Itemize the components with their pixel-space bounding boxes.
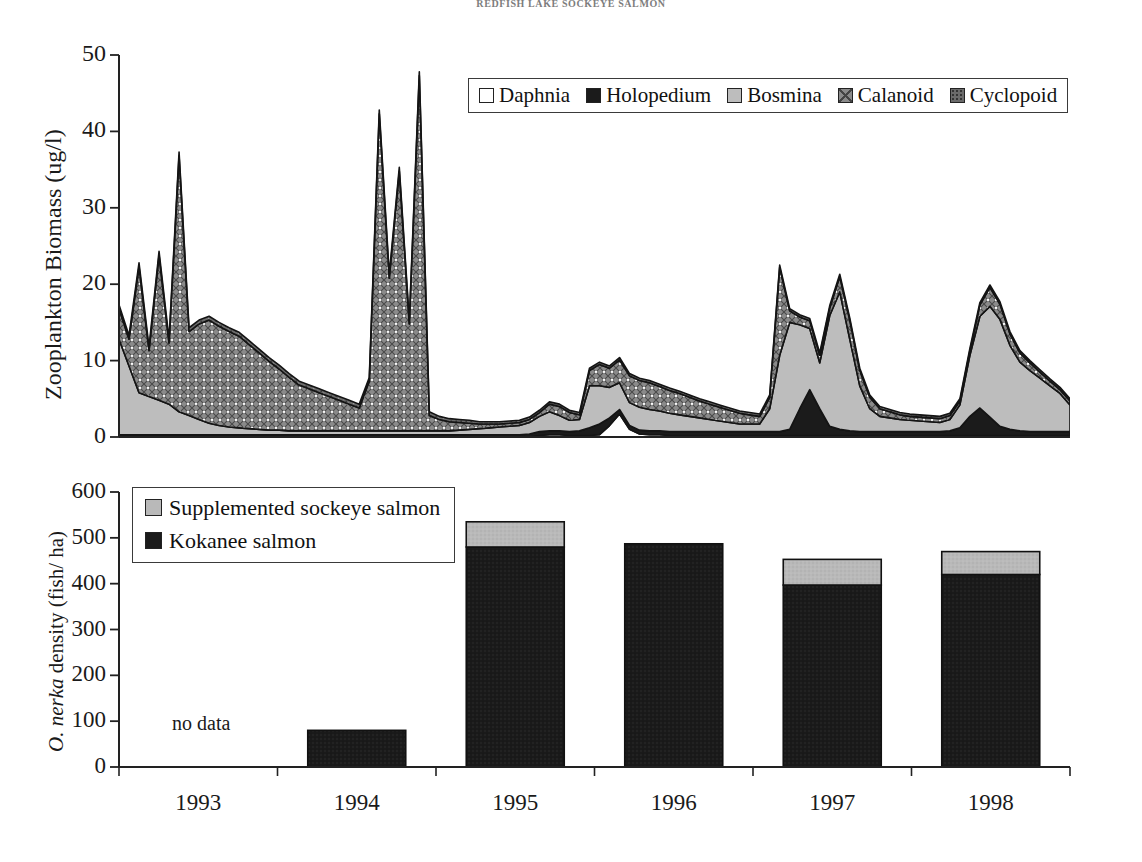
top-y-tick-40: 40 (30, 117, 106, 141)
legend-label: Calanoid (858, 84, 934, 106)
bottom-y-tick-200: 200 (18, 662, 106, 685)
supplemented-sockeye-swatch (145, 499, 162, 516)
zooplankton-legend: DaphniaHolopediumBosminaCalanoidCyclopoi… (468, 78, 1068, 113)
legend-item-kokanee: Kokanee salmon (145, 529, 440, 552)
x-tick-1993: 1993 (128, 790, 268, 816)
legend-label: Supplemented sockeye salmon (169, 496, 440, 519)
bar-kokanee-1994 (308, 730, 406, 767)
bottom-y-tick-300: 300 (18, 617, 106, 640)
bar-supplemented-1997 (783, 559, 881, 585)
bar-supplemented-1995 (466, 522, 564, 547)
legend-label: Daphnia (499, 84, 570, 106)
bottom-y-tick-600: 600 (18, 479, 106, 502)
top-y-tick-50: 50 (30, 41, 106, 65)
top-y-tick-30: 30 (30, 194, 106, 218)
bottom-y-tick-100: 100 (18, 708, 106, 731)
legend-item-supplemented-sockeye: Supplemented sockeye salmon (145, 496, 440, 519)
legend-label: Holopedium (606, 84, 711, 106)
legend-item-daphnia: Daphnia (479, 84, 570, 106)
x-tick-1998: 1998 (921, 790, 1061, 816)
cyclopoid-swatch (950, 88, 965, 103)
bottom-y-tick-400: 400 (18, 571, 106, 594)
area-series-calanoid (119, 76, 1070, 431)
calanoid-swatch (838, 88, 853, 103)
figure-panel: REDFISH LAKE SOCKEYE SALMON Zooplankton … (0, 0, 1142, 862)
holopedium-swatch (586, 88, 601, 103)
legend-label: Cyclopoid (970, 84, 1058, 106)
top-y-tick-20: 20 (30, 270, 106, 294)
zooplankton-biomass-chart (0, 0, 1142, 470)
bar-kokanee-1995 (466, 547, 564, 767)
legend-item-calanoid: Calanoid (838, 84, 934, 106)
bar-supplemented-1998 (942, 552, 1040, 575)
top-y-tick-0: 0 (30, 423, 106, 447)
legend-item-bosmina: Bosmina (727, 84, 822, 106)
legend-label: Bosmina (747, 84, 822, 106)
daphnia-swatch (479, 88, 494, 103)
x-tick-1995: 1995 (445, 790, 585, 816)
legend-item-cyclopoid: Cyclopoid (950, 84, 1058, 106)
bottom-y-tick-500: 500 (18, 525, 106, 548)
no-data-annotation: no data (172, 712, 230, 735)
x-tick-1997: 1997 (762, 790, 902, 816)
bar-kokanee-1996 (625, 544, 723, 767)
x-tick-1996: 1996 (604, 790, 744, 816)
kokanee-swatch (145, 532, 162, 549)
bosmina-swatch (727, 88, 742, 103)
x-tick-1994: 1994 (287, 790, 427, 816)
legend-label: Kokanee salmon (169, 529, 316, 552)
bar-kokanee-1998 (942, 575, 1040, 768)
onerka-legend: Supplemented sockeye salmonKokanee salmo… (132, 487, 455, 563)
bottom-y-tick-0: 0 (18, 754, 106, 777)
top-y-tick-10: 10 (30, 347, 106, 371)
legend-item-holopedium: Holopedium (586, 84, 711, 106)
bar-kokanee-1997 (783, 585, 881, 767)
